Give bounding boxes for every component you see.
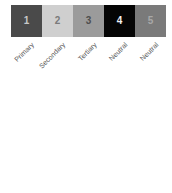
swatch-label: Neutral (139, 41, 160, 62)
swatch-primary[interactable]: 1 Primary (11, 5, 42, 37)
swatch-label: Secondary (38, 41, 67, 70)
swatch-label: Tertiary (76, 41, 97, 62)
swatch-number: 4 (117, 16, 123, 26)
swatch-number: 5 (148, 16, 154, 26)
swatch-tertiary[interactable]: 3 Tertiary (73, 5, 104, 37)
swatch-neutral-mid[interactable]: 5 Neutral (135, 5, 166, 37)
swatch-label: Neutral (108, 41, 129, 62)
swatch-number: 3 (86, 16, 92, 26)
color-palette: 1 Primary 2 Secondary 3 Tertiary 4 Neutr… (11, 5, 166, 37)
swatch-label: Primary (13, 41, 35, 63)
swatch-neutral-dark[interactable]: 4 Neutral (104, 5, 135, 37)
swatch-secondary[interactable]: 2 Secondary (42, 5, 73, 37)
swatch-number: 2 (55, 16, 61, 26)
swatch-number: 1 (24, 16, 30, 26)
